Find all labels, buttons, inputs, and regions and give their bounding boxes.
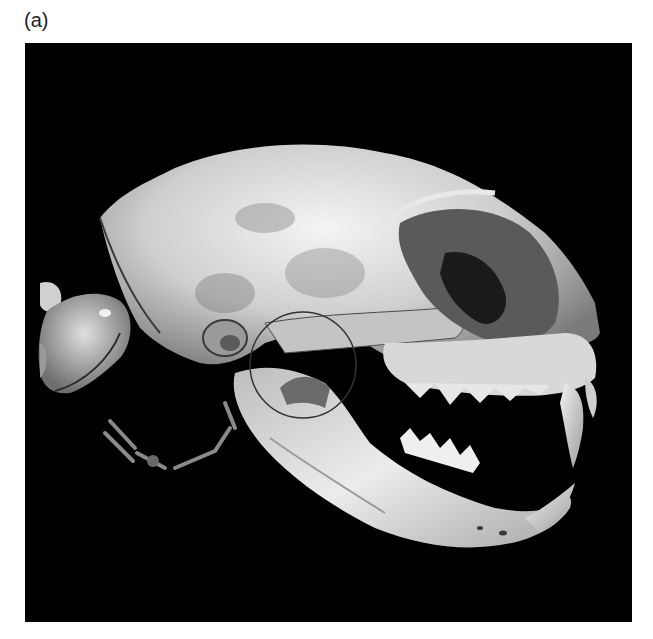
cervical-vertebra xyxy=(39,282,131,393)
upper-canine xyxy=(560,383,583,468)
ct-rendering-panel xyxy=(25,43,632,622)
hyoid-bones xyxy=(105,403,235,468)
panel-label: (a) xyxy=(24,10,48,30)
skull-rendering xyxy=(25,43,632,622)
